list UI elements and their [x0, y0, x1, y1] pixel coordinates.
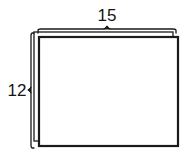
height-brace-apex-icon — [27, 86, 31, 93]
front-face-rectangle — [39, 37, 178, 146]
width-dimension-label: 15 — [98, 6, 117, 25]
figure-canvas: 15 12 — [0, 0, 189, 154]
geometry-figure: 15 12 — [0, 0, 189, 154]
height-dimension-label: 12 — [8, 81, 27, 100]
width-brace-apex-icon — [103, 25, 110, 29]
